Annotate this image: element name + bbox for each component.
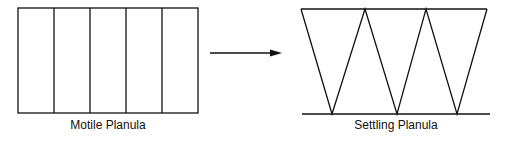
- motile-planula-figure: [18, 8, 198, 113]
- motile-planula-label: Motile Planula: [18, 118, 198, 132]
- settling-planula-label: Settling Planula: [302, 118, 490, 132]
- arrow-right-icon: [210, 50, 282, 57]
- settling-planula-figure: [301, 9, 490, 114]
